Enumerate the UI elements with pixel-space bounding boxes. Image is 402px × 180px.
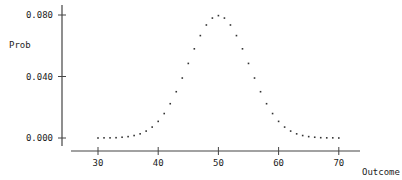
data-point: [242, 48, 244, 50]
data-point: [115, 137, 117, 139]
x-tick-label: 40: [153, 158, 164, 168]
data-point: [218, 15, 220, 17]
data-point: [212, 17, 214, 19]
data-point: [175, 91, 177, 93]
data-point: [139, 133, 141, 135]
data-point: [188, 63, 190, 65]
data-point: [260, 91, 262, 93]
data-point: [145, 130, 147, 132]
x-axis-label: Outcome: [362, 167, 400, 177]
y-tick-label: 0.000: [26, 133, 53, 143]
data-point: [206, 24, 208, 26]
probability-chart: 0.0000.0400.080 3040506070 Prob Outcome: [0, 0, 402, 180]
data-point: [163, 113, 165, 115]
x-tick-label: 30: [93, 158, 104, 168]
data-point: [272, 113, 274, 115]
x-tick-label: 60: [273, 158, 284, 168]
data-point: [103, 137, 105, 139]
data-point: [332, 137, 334, 139]
data-point: [151, 126, 153, 128]
data-point: [224, 17, 226, 19]
data-point: [133, 135, 135, 137]
x-axis: 3040506070: [71, 147, 360, 168]
x-tick-label: 70: [333, 158, 344, 168]
data-point: [194, 48, 196, 50]
y-axis-label: Prob: [9, 40, 31, 50]
data-point: [121, 136, 123, 138]
data-point: [284, 126, 286, 128]
y-tick-label: 0.080: [26, 10, 53, 20]
data-point: [109, 137, 111, 139]
data-point: [254, 77, 256, 79]
data-point: [248, 63, 250, 65]
data-point: [236, 35, 238, 37]
data-points: [97, 15, 339, 139]
data-point: [296, 133, 298, 135]
data-point: [278, 121, 280, 123]
x-tick-label: 50: [213, 158, 224, 168]
data-point: [302, 135, 304, 137]
data-point: [308, 136, 310, 138]
data-point: [314, 136, 316, 138]
data-point: [290, 130, 292, 132]
data-point: [127, 136, 129, 138]
data-point: [169, 103, 171, 105]
data-point: [157, 121, 159, 123]
data-point: [181, 77, 183, 79]
data-point: [97, 137, 99, 139]
data-point: [266, 103, 268, 105]
y-axis: 0.0000.0400.080: [26, 5, 66, 146]
y-tick-label: 0.040: [26, 72, 53, 82]
data-point: [326, 137, 328, 139]
data-point: [200, 35, 202, 37]
data-point: [230, 24, 232, 26]
data-point: [320, 137, 322, 139]
data-point: [338, 137, 340, 139]
